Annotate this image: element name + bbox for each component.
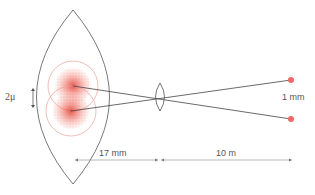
point-source-upper [288, 77, 294, 83]
ray-upper [73, 86, 291, 119]
retina-separation-label: 2μ [5, 91, 15, 102]
dimension-17mm [75, 159, 158, 162]
ray-lower [71, 80, 291, 111]
dimension-10m [161, 159, 292, 162]
source-separation-label: 1 mm [282, 92, 305, 102]
pupil-lens [156, 83, 165, 111]
retina-separation-arrow [31, 88, 35, 108]
object-distance-label: 10 m [216, 148, 236, 158]
eye-length-label: 17 mm [99, 148, 127, 158]
eye-optics-diagram [0, 0, 315, 195]
point-source-lower [288, 116, 294, 122]
